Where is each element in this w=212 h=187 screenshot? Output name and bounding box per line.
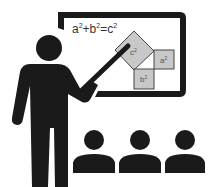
students bbox=[73, 130, 205, 173]
formula-text: a2+b2=c2 bbox=[72, 22, 117, 36]
pythagoras-squares: c2 a2 b2 bbox=[115, 31, 174, 89]
student-3 bbox=[165, 130, 205, 173]
teacher-head bbox=[36, 35, 62, 61]
teacher-whiteboard-illustration: a2+b2=c2 c2 a2 b2 bbox=[0, 0, 212, 187]
student-1 bbox=[73, 130, 115, 173]
student-2 bbox=[119, 130, 161, 173]
